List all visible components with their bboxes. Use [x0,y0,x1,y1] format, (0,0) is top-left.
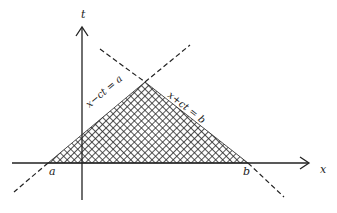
diagram-svg [0,0,337,213]
t-axis [76,27,88,200]
shaded-region [48,82,248,163]
diagram-canvas: t x a b x−ct = a x+ct = b [0,0,337,213]
x-axis-label: x [320,164,326,175]
t-axis-label: t [81,9,85,20]
point-b-label: b [243,166,250,177]
point-a-label: a [49,166,56,177]
